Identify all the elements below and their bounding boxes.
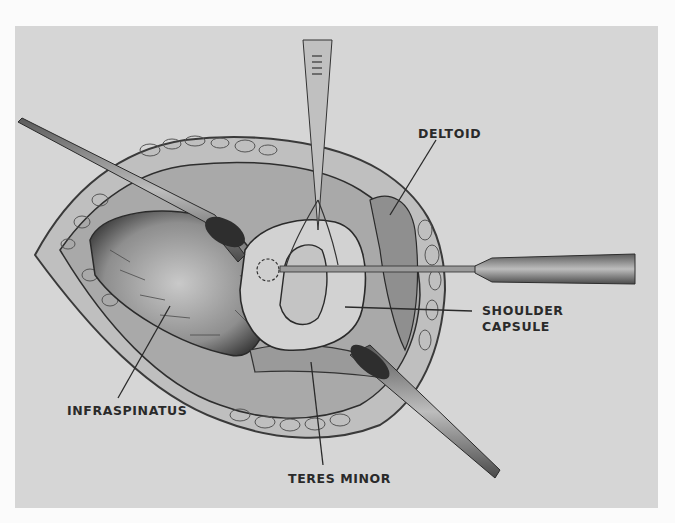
label-shoulder-capsule-line1: SHOULDER [482, 304, 564, 318]
label-shoulder-capsule-line2: CAPSULE [482, 320, 550, 334]
label-teres-minor: TERES MINOR [288, 472, 391, 486]
label-infraspinatus: INFRASPINATUS [67, 404, 187, 418]
label-deltoid: DELTOID [418, 127, 481, 141]
shoulder-surgery-illustration [0, 0, 675, 523]
